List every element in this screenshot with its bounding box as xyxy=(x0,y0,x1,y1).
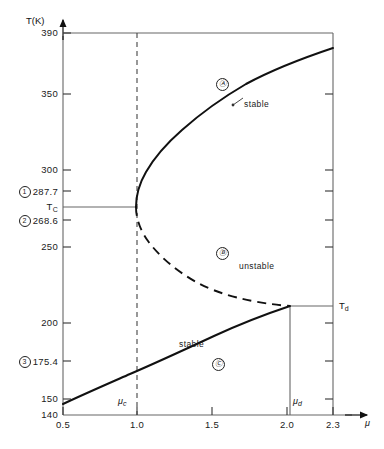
y-tick-value-268-6: 268.6 xyxy=(33,215,58,226)
x-tick-marks xyxy=(63,407,333,415)
branch-a-leader-dot xyxy=(232,104,235,107)
branch-c-circle-letter: Ⓒ xyxy=(212,358,225,371)
td-label: Td xyxy=(339,300,349,312)
x-tick-label-0-5: 0.5 xyxy=(47,419,79,430)
y-tick-value-175-4: 175.4 xyxy=(33,356,58,367)
y-tick-marks xyxy=(63,33,71,399)
y-tick-label-300: 300 xyxy=(0,165,58,175)
branch-b-circle-letter: Ⓑ xyxy=(216,247,229,260)
x-axis-title: μ xyxy=(365,418,370,428)
mu-d-subscript: d xyxy=(298,400,302,407)
td-subscript: d xyxy=(345,305,349,312)
mu-d-label: μd xyxy=(293,396,302,407)
y-tick-label-150: 150 xyxy=(0,394,58,404)
x-tick-label-1-0: 1.0 xyxy=(121,419,153,430)
y-tick-label-390: 390 xyxy=(0,28,58,38)
plot-frame xyxy=(63,20,367,415)
index-marker-2: 2 xyxy=(19,215,31,227)
branch-c-curve xyxy=(63,306,290,404)
y-tick-label-350: 350 xyxy=(0,89,58,99)
x-tick-label-2-3: 2.3 xyxy=(317,419,349,430)
index-marker-1: 1 xyxy=(19,186,31,198)
y-tick-label-175-4: 3175.4 xyxy=(0,356,58,368)
branch-b-label: Ⓑ xyxy=(216,247,229,260)
branch-a-stability-label: stable xyxy=(244,99,269,109)
index-marker-3: 3 xyxy=(19,356,31,368)
branch-a-curve xyxy=(136,48,333,207)
branch-c-label: Ⓒ xyxy=(212,358,225,371)
branch-a-circle-letter: Ⓐ xyxy=(216,78,229,91)
y-tick-label-287-7: 1287.7 xyxy=(0,186,58,198)
right-tick-marks xyxy=(325,94,333,399)
tc-subscript: C xyxy=(53,206,58,213)
branch-c-stability-label: stable xyxy=(179,339,204,349)
y-tick-label-250: 250 xyxy=(0,242,58,252)
mu-c-subscript: c xyxy=(123,400,127,407)
x-tick-label-2-0: 2.0 xyxy=(271,419,303,430)
branch-a-label: Ⓐ xyxy=(216,78,229,91)
branch-a-leader-line xyxy=(233,98,243,105)
branch-b-stability-label: unstable xyxy=(239,261,274,271)
branch-b-curve xyxy=(136,207,290,306)
y-tick-label-200: 200 xyxy=(0,318,58,328)
y-tick-value-287-7: 287.7 xyxy=(33,186,58,197)
x-tick-label-1-5: 1.5 xyxy=(196,419,228,430)
y-axis-title: T(K) xyxy=(26,15,44,26)
y-tick-label-268-6: 2268.6 xyxy=(0,215,58,227)
mu-c-label: μc xyxy=(118,396,126,407)
chart-figure: 390 350 300 1287.7 TC 2268.6 250 200 317… xyxy=(0,0,384,449)
y-tick-label-tc: TC xyxy=(0,202,58,213)
